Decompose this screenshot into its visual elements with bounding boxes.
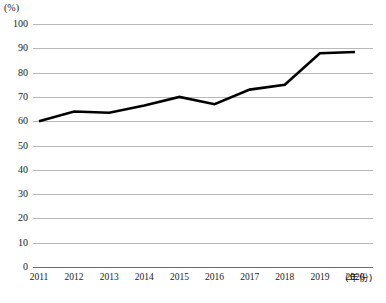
- x-axis-tick-label: 2014: [124, 272, 164, 283]
- x-axis-tick-label: 2018: [265, 272, 305, 283]
- y-axis-tick-label: 60: [0, 116, 28, 126]
- x-axis-name-label: (年份): [345, 272, 372, 283]
- gridline: [33, 267, 373, 268]
- y-axis-unit-label: (%): [4, 2, 19, 14]
- y-axis-tick-label: 80: [0, 68, 28, 78]
- y-axis-tick-label: 30: [0, 189, 28, 199]
- y-axis-tick-label: 90: [0, 43, 28, 53]
- x-axis-tick-label: 2015: [159, 272, 199, 283]
- x-axis-tick-label: 2016: [195, 272, 235, 283]
- y-axis-tick-label: 50: [0, 141, 28, 151]
- x-axis-tick-label: 2011: [19, 272, 59, 283]
- y-axis-tick-label: 0: [0, 262, 28, 272]
- x-axis-tick-label: 2019: [300, 272, 340, 283]
- y-axis-tick-label: 70: [0, 92, 28, 102]
- series-polyline: [39, 52, 355, 121]
- series-line: [33, 24, 373, 267]
- x-axis-tick-label: 2012: [54, 272, 94, 283]
- y-axis-tick-label: 10: [0, 238, 28, 248]
- y-axis-tick-label: 20: [0, 213, 28, 223]
- x-axis-tick-label: 2013: [89, 272, 129, 283]
- line-chart: (%) 1009080706050403020100 2011201220132…: [0, 0, 386, 303]
- y-axis-tick-label: 100: [0, 19, 28, 29]
- plot-area: [33, 24, 373, 267]
- x-axis-tick-label: 2017: [230, 272, 270, 283]
- y-axis-tick-label: 40: [0, 165, 28, 175]
